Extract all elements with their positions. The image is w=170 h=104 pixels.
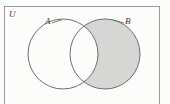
figure-page: U A B [0, 0, 170, 104]
set-b-label: B [125, 17, 131, 26]
venn-diagram-figure [0, 0, 170, 104]
set-a-label: A [45, 17, 51, 26]
universal-set-label: U [9, 10, 16, 19]
